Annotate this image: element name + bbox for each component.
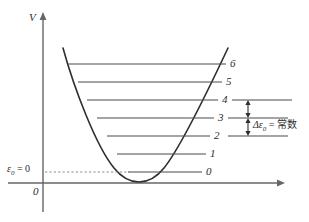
y-axis-arrowhead: [40, 12, 47, 20]
figure-canvas: [0, 0, 309, 222]
y-axis-label: V: [29, 12, 36, 23]
origin-label: 0: [33, 186, 39, 197]
energy-level-label-4: 4: [222, 94, 228, 105]
energy-level-label-5: 5: [226, 76, 232, 87]
x-axis-arrowhead: [277, 180, 285, 187]
energy-level-label-6: 6: [230, 58, 236, 69]
potential-curve: [63, 48, 228, 182]
arrowhead-down-1: [245, 113, 250, 118]
energy-level-label-3: 3: [218, 112, 224, 123]
arrowhead-up-2: [245, 118, 250, 123]
delta-epsilon-symbol: Δε: [253, 119, 263, 130]
spacing-annotation-label: Δε0 = 常数: [253, 120, 297, 133]
arrowhead-up-1: [245, 100, 250, 105]
spacing-equals-sign: =: [266, 119, 277, 130]
energy-level-label-1: 1: [210, 148, 216, 159]
energy-level-label-2: 2: [214, 130, 220, 141]
epsilon-equals-zero: = 0: [14, 163, 30, 174]
energy-level-label-0: 0: [206, 166, 212, 177]
constant-text: 常数: [277, 119, 297, 130]
ground-energy-label: ε0 = 0: [7, 164, 30, 177]
arrowhead-down-2: [245, 131, 250, 136]
harmonic-oscillator-figure: V 0 ε0 = 0 0 1 2 3 4 5 6 Δε0 = 常数: [0, 0, 309, 222]
energy-levels: [68, 64, 226, 172]
y-axis: [40, 12, 47, 212]
